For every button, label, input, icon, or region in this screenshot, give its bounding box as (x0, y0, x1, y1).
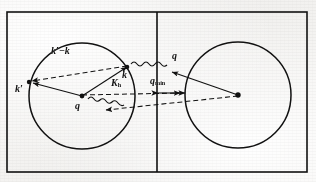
label-k-prime: k′ (15, 84, 23, 94)
label-k-prime-minus-k: k′−k (51, 46, 70, 56)
figure-stage: k′−k k′ k q Kh q qmin (0, 0, 316, 182)
right-centre-dot (235, 92, 240, 97)
label-K-h-base: K (111, 77, 118, 88)
upper-wavy-spring-line (131, 62, 167, 66)
label-K-h-subscript: h (118, 81, 121, 88)
label-q-left: q (75, 101, 80, 111)
q-lower-dashed-arrow (106, 96, 238, 110)
label-q-right: q (172, 51, 177, 61)
label-q-min-subscript: min (155, 79, 165, 86)
q-to-k-prime-arrow (33, 83, 82, 96)
label-k: k (122, 70, 127, 80)
k-prime-vertex-dot (27, 80, 31, 84)
left-centre-dot (80, 94, 85, 99)
label-q-min: qmin (150, 76, 165, 86)
lower-wavy-spring-line (88, 97, 124, 106)
right-centre-to-q-arrow (172, 72, 238, 95)
label-K-h: Kh (111, 78, 121, 88)
scattering-diagram-svg (0, 0, 316, 182)
